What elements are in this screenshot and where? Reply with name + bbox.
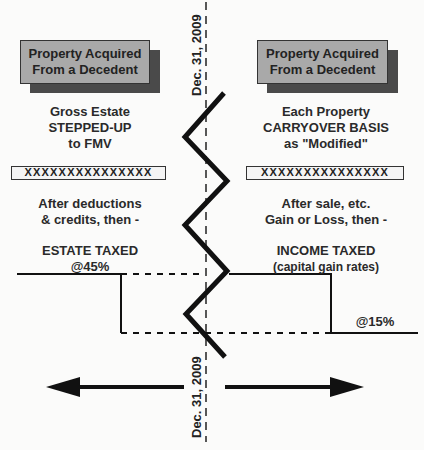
left-after-line1: After deductions	[10, 196, 170, 212]
right-after-line1: After sale, etc.	[236, 196, 416, 212]
left-box-title-line1: Property Acquired	[29, 46, 142, 62]
left-basis-line1: Gross Estate	[10, 104, 170, 120]
right-box-title-line1: Property Acquired	[266, 46, 379, 62]
right-basis-line2: CARRYOVER BASIS	[236, 120, 416, 136]
left-title-box: Property Acquired From a Decedent	[20, 40, 150, 84]
left-arrow-icon	[46, 377, 184, 397]
right-basis-text: Each Property CARRYOVER BASIS as "Modifi…	[236, 104, 416, 152]
estate-tax-level-line	[17, 274, 121, 333]
left-basis-line2: STEPPED-UP	[10, 120, 170, 136]
right-after-text: After sale, etc. Gain or Loss, then -	[236, 196, 416, 228]
right-title-box: Property Acquired From a Decedent	[257, 40, 388, 84]
left-basis-text: Gross Estate STEPPED-UP to FMV	[10, 104, 170, 152]
right-box-title-line2: From a Decedent	[270, 62, 375, 78]
left-box-title-line2: From a Decedent	[32, 62, 137, 78]
capital-gain-rates-label: (capital gain rates)	[236, 259, 416, 275]
right-x-row: XXXXXXXXXXXXXXX	[246, 166, 404, 180]
estate-taxed-label: ESTATE TAXED	[10, 243, 170, 259]
right-tax-text: INCOME TAXED (capital gain rates)	[236, 243, 416, 275]
left-x-row: XXXXXXXXXXXXXXX	[11, 166, 166, 180]
divider-date-bottom: Dec. 31, 2009	[189, 356, 204, 438]
right-arrow-icon	[225, 377, 364, 397]
left-after-line2: & credits, then -	[10, 212, 170, 228]
left-basis-line3: to FMV	[10, 136, 170, 152]
income-tax-rate: @15%	[345, 314, 405, 330]
left-tax-text: ESTATE TAXED @45%	[10, 243, 170, 275]
income-taxed-label: INCOME TAXED	[236, 243, 416, 259]
right-basis-line1: Each Property	[236, 104, 416, 120]
right-after-line2: Gain or Loss, then -	[236, 212, 416, 228]
estate-tax-rate: @45%	[10, 259, 170, 275]
left-after-text: After deductions & credits, then -	[10, 196, 170, 228]
divider-date-top: Dec. 31, 2009	[189, 14, 204, 96]
right-basis-line3: as "Modified"	[236, 136, 416, 152]
